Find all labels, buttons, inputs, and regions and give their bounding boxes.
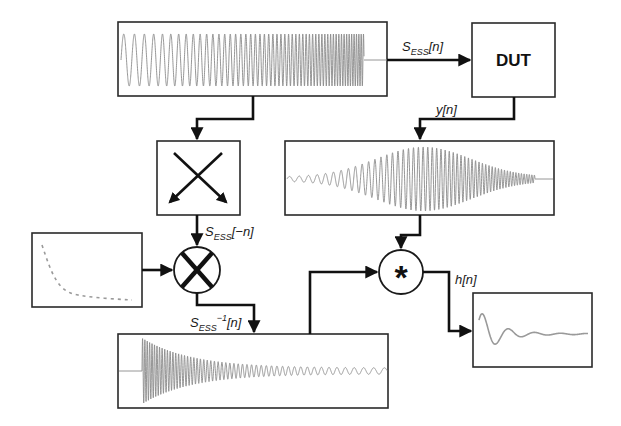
wire-inverse-to-convolution [310, 272, 377, 334]
impulse-response-block [473, 293, 592, 367]
time-reversal-box [157, 141, 240, 215]
inverse-filter-block [118, 334, 388, 408]
wire-sweep-to-reversal [197, 96, 253, 139]
ess-block-diagram: SESS[n] DUT y[n] SESS[−n] SESS−1[n] [0, 0, 621, 426]
wire-output-to-convolution [401, 215, 420, 248]
label-sweep-signal: SESS[n] [402, 39, 444, 57]
label-inverse-signal: SESS−1[n] [190, 313, 242, 333]
label-output-signal: y[n] [435, 102, 457, 117]
impulse-response-box [473, 293, 592, 367]
multiplier-node [174, 247, 220, 293]
recorded-output-block [285, 141, 554, 215]
label-impulse-signal: h[n] [455, 272, 477, 287]
sweep-signal-block [118, 22, 387, 96]
time-reversal-block [157, 141, 240, 215]
dut-block: DUT [472, 23, 555, 97]
dut-label: DUT [496, 51, 532, 70]
envelope-block [32, 233, 142, 307]
label-reversed-signal: SESS[−n] [205, 224, 254, 242]
convolution-node: * [379, 250, 423, 296]
envelope-box [32, 233, 142, 307]
convolution-asterisk-icon: * [394, 258, 408, 296]
wire-dut-to-output [420, 97, 514, 139]
